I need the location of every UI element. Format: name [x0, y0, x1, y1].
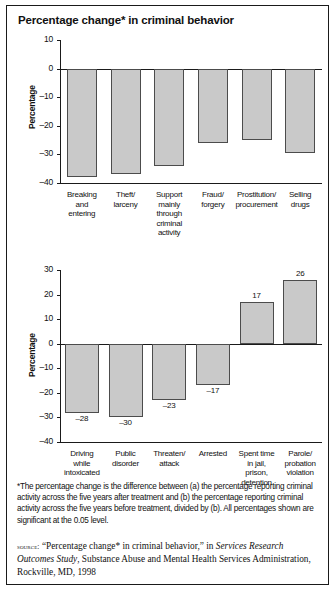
x-label-line: Public: [101, 449, 151, 459]
bar: [154, 69, 184, 166]
x-label-line: criminal: [144, 219, 194, 229]
y-tick-mark: [57, 270, 60, 271]
x-axis-category-label: Fraud/forgery: [188, 190, 238, 209]
x-axis-category-label: Sellingdrugs: [275, 190, 325, 209]
frame-border-bottom: [6, 584, 329, 585]
x-label-line: intoxicated: [57, 468, 107, 478]
source-prefix: source:: [17, 542, 40, 551]
x-label-line: Theft/: [101, 190, 151, 200]
y-tick-mark: [57, 319, 60, 320]
x-label-line: Driving: [57, 449, 107, 459]
x-label-line: disorder: [101, 459, 151, 469]
bar: [285, 69, 315, 153]
x-label-line: violation: [275, 468, 325, 478]
x-axis-category-label: Supportmainlythroughcriminalactivity: [144, 190, 194, 238]
x-label-line: while: [57, 459, 107, 469]
bar: [242, 69, 272, 141]
bar: [67, 69, 97, 178]
x-label-line: Support: [144, 190, 194, 200]
y-axis-line: [60, 40, 61, 183]
x-axis-category-label: Threaten/attack: [144, 449, 194, 468]
bar: [109, 344, 143, 418]
frame-border-right: [328, 5, 329, 585]
bar-value-label: 17: [235, 291, 279, 300]
x-label-line: entering: [57, 209, 107, 219]
y-axis-title: Percentage: [27, 85, 37, 129]
x-axis-line: [60, 183, 322, 184]
x-label-line: in jail,: [232, 459, 282, 469]
bar: [198, 69, 228, 143]
x-label-line: Threaten/: [144, 449, 194, 459]
frame-border-top: [6, 5, 329, 6]
y-tick-label: –20: [16, 387, 53, 397]
y-tick-mark: [57, 368, 60, 369]
x-label-line: activity: [144, 228, 194, 238]
bar: [196, 344, 230, 386]
x-axis-category-label: Arrested: [188, 449, 238, 459]
x-label-line: drugs: [275, 200, 325, 210]
x-label-line: through: [144, 209, 194, 219]
y-tick-label: 0: [16, 63, 53, 73]
y-tick-label: –30: [16, 148, 53, 158]
y-tick-mark: [57, 183, 60, 184]
x-axis-category-label: Theft/larceny: [101, 190, 151, 209]
x-label-line: Spent time: [232, 449, 282, 459]
y-tick-label: –40: [16, 177, 53, 187]
bar-value-label: –23: [147, 401, 191, 410]
x-axis-category-label: Breakingandentering: [57, 190, 107, 219]
x-label-line: prison,: [232, 468, 282, 478]
y-axis-title: Percentage: [27, 333, 37, 377]
bar-value-label: 26: [278, 269, 322, 278]
y-tick-mark: [57, 295, 60, 296]
bar: [240, 302, 274, 344]
x-label-line: forgery: [188, 200, 238, 210]
x-axis-line: [60, 442, 322, 443]
y-tick-mark: [57, 69, 60, 70]
y-tick-label: 20: [16, 289, 53, 299]
chart-criminal-behavior-part2: 3020100–10–20–30–40Percentage–28Drivingw…: [16, 262, 324, 509]
bar: [283, 280, 317, 344]
chart-criminal-behavior-part1: 100–10–20–30–40PercentageBreakingandente…: [16, 30, 324, 250]
y-tick-label: –40: [16, 436, 53, 446]
x-axis-category-label: Prostitution/procurement: [232, 190, 282, 209]
y-tick-mark: [57, 154, 60, 155]
bar-value-label: –17: [191, 386, 235, 395]
y-tick-mark: [57, 393, 60, 394]
x-label-line: and: [57, 200, 107, 210]
zero-line: [60, 344, 322, 345]
figure-source: source: “Percentage change* in criminal …: [17, 540, 320, 578]
frame-border-left: [6, 5, 7, 585]
x-axis-category-label: Drivingwhileintoxicated: [57, 449, 107, 478]
bar-value-label: –30: [104, 418, 148, 427]
x-label-line: Prostitution/: [232, 190, 282, 200]
y-tick-mark: [57, 344, 60, 345]
y-tick-label: 10: [16, 34, 53, 44]
y-tick-label: 10: [16, 313, 53, 323]
x-axis-category-label: Publicdisorder: [101, 449, 151, 468]
x-label-line: attack: [144, 459, 194, 469]
x-label-line: Parole/: [275, 449, 325, 459]
x-label-line: Arrested: [188, 449, 238, 459]
y-tick-mark: [57, 97, 60, 98]
x-label-line: probation: [275, 459, 325, 469]
x-label-line: Breaking: [57, 190, 107, 200]
figure-container: Percentage change* in criminal behavior …: [0, 0, 335, 589]
x-label-line: procurement: [232, 200, 282, 210]
bar: [111, 69, 141, 175]
zero-line: [60, 69, 322, 70]
y-tick-mark: [57, 40, 60, 41]
bar-value-label: –28: [60, 414, 104, 423]
x-label-line: mainly: [144, 200, 194, 210]
figure-footnote: *The percentage change is the difference…: [17, 481, 320, 526]
x-label-line: Selling: [275, 190, 325, 200]
x-label-line: Fraud/: [188, 190, 238, 200]
x-label-line: larceny: [101, 200, 151, 210]
figure-title: Percentage change* in criminal behavior: [18, 14, 234, 26]
y-tick-label: –30: [16, 411, 53, 421]
y-tick-mark: [57, 126, 60, 127]
y-tick-mark: [57, 442, 60, 443]
x-axis-category-label: Parole/probationviolation: [275, 449, 325, 478]
bar: [152, 344, 186, 401]
source-text-1: “Percentage change* in criminal behavior…: [42, 541, 216, 551]
y-tick-label: 30: [16, 264, 53, 274]
